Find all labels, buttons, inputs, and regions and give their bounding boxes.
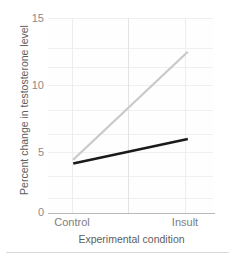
x-tick-label-control: Control	[32, 216, 112, 228]
chart-figure: 15 10 5 0 Control Insult Percent change …	[0, 0, 235, 262]
x-tick-label-insult: Insult	[145, 216, 225, 228]
data-lines	[48, 18, 213, 213]
plot-area	[48, 18, 213, 213]
y-axis-title: Percent change in testosterone level	[18, 10, 30, 210]
figure-bottom-rule	[6, 252, 229, 253]
x-axis-line	[48, 213, 215, 214]
x-axis-title: Experimental condition	[48, 233, 215, 245]
